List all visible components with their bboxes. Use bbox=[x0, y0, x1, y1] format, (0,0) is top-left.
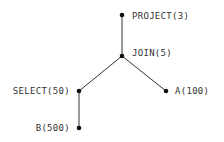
label-a: A(100) bbox=[175, 86, 209, 96]
node-a bbox=[164, 89, 169, 94]
node-b bbox=[77, 126, 82, 131]
node-join bbox=[120, 54, 125, 59]
label-b: B(500) bbox=[36, 123, 70, 133]
edge-join-select bbox=[79, 56, 122, 91]
query-plan-diagram: PROJECT(3) JOIN(5) SELECT(50) A(100) B(5… bbox=[0, 0, 224, 142]
label-select: SELECT(50) bbox=[13, 86, 70, 96]
edges bbox=[79, 15, 166, 128]
label-project: PROJECT(3) bbox=[132, 11, 189, 21]
node-project bbox=[120, 13, 125, 18]
label-join: JOIN(5) bbox=[132, 48, 172, 58]
edge-join-a bbox=[122, 56, 166, 91]
labels: PROJECT(3) JOIN(5) SELECT(50) A(100) B(5… bbox=[13, 11, 210, 134]
node-select bbox=[77, 89, 82, 94]
